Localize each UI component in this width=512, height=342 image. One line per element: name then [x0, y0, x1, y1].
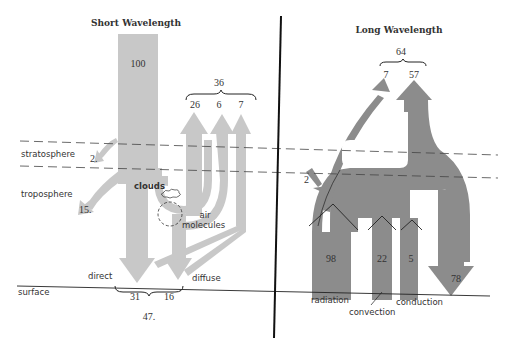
- absorbed-stratosphere: 2.: [90, 153, 98, 164]
- troposphere-label: troposphere: [21, 189, 72, 199]
- clouds-label: clouds: [134, 181, 165, 191]
- radiation-value: 98: [326, 253, 336, 264]
- radiation-label: radiation: [311, 295, 349, 305]
- convection-value: 22: [377, 253, 387, 264]
- surface-line: [17, 286, 490, 296]
- stratosphere-label: stratosphere: [21, 149, 75, 159]
- convection-label: convection: [349, 307, 395, 317]
- emitted-brace: [380, 59, 426, 66]
- air-label: air: [199, 210, 211, 220]
- reflected-7: 7: [239, 99, 244, 110]
- direct-label: direct: [88, 271, 113, 281]
- emitted-total: 64: [396, 46, 406, 57]
- diffuse-label: diffuse: [192, 273, 221, 283]
- conduction-label: conduction: [396, 297, 443, 307]
- long-wave-title: Long Wavelength: [355, 25, 443, 35]
- surface-direct-value: 31: [130, 291, 140, 302]
- long-wave-flows: [306, 78, 474, 300]
- absorbed-2: 2: [304, 174, 309, 185]
- surface-label: surface: [18, 287, 49, 297]
- back-radiation-value: 78: [451, 273, 461, 284]
- reflected-total: 36: [214, 77, 224, 88]
- conduction-value: 5: [409, 253, 414, 264]
- short-wave-title: Short Wavelength: [91, 18, 181, 28]
- reflected-6: 6: [217, 99, 222, 110]
- surface-diffuse-value: 16: [164, 291, 174, 302]
- panel-divider: [274, 16, 281, 338]
- molecules-label: molecules: [182, 220, 226, 230]
- incoming-value: 100: [131, 58, 146, 69]
- short-wave-flows: [78, 34, 251, 283]
- energy-balance-diagram: Short Wavelength 100 36 26 6 7 2. 15. st…: [0, 0, 512, 342]
- emitted-7: 7: [384, 69, 389, 80]
- surface-total: 47.: [143, 311, 156, 322]
- absorbed-troposphere: 15.: [79, 204, 92, 215]
- reflected-26: 26: [190, 99, 200, 110]
- emitted-57: 57: [409, 69, 419, 80]
